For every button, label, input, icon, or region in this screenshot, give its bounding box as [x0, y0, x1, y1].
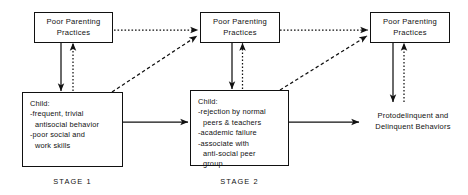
- node-outcome-behaviors: Protodelinquent and Delinquent Behaviors: [358, 110, 468, 132]
- node-poor-parenting-practices-1: Poor Parenting Practices: [34, 12, 113, 43]
- outcome-line2: Delinquent Behaviors: [358, 121, 468, 132]
- arrow-child2-to-parenting3: [280, 36, 367, 90]
- parenting1-line2: Practices: [57, 28, 90, 39]
- child2-item-5: group: [198, 159, 288, 169]
- node-poor-parenting-practices-2: Poor Parenting Practices: [200, 12, 280, 43]
- parenting1-line1: Poor Parenting: [46, 17, 100, 28]
- stage-label-2: STAGE 2: [190, 177, 289, 186]
- node-child-stage-2: Child: -rejection by normal peers & teac…: [190, 90, 289, 166]
- parenting2-line1: Poor Parenting: [213, 17, 267, 28]
- child1-item-0: -frequent, trivial: [30, 109, 122, 119]
- child2-item-3: -associate with: [198, 139, 288, 149]
- node-poor-parenting-practices-3: Poor Parenting Practices: [370, 12, 450, 43]
- child2-item-2: -academic failure: [198, 128, 288, 138]
- parenting3-line2: Practices: [393, 28, 426, 39]
- child1-heading: Child:: [30, 99, 122, 109]
- parenting3-line1: Poor Parenting: [383, 17, 437, 28]
- outcome-line1: Protodelinquent and: [358, 110, 468, 121]
- diagram-canvas: Poor Parenting Practices Poor Parenting …: [0, 0, 468, 195]
- stage-label-1: STAGE 1: [22, 177, 123, 186]
- node-child-stage-1: Child: -frequent, trivial antisocial beh…: [22, 92, 123, 167]
- child2-heading: Child:: [198, 97, 288, 107]
- child2-item-4: anti-social peer: [198, 149, 288, 159]
- arrow-child1-to-parenting2: [112, 36, 197, 92]
- child1-item-3: work skills: [30, 141, 122, 151]
- child2-item-1: peers & teachers: [198, 118, 288, 128]
- child1-item-1: antisocial behavior: [30, 120, 122, 130]
- child2-item-0: -rejection by normal: [198, 107, 288, 117]
- parenting2-line2: Practices: [223, 28, 256, 39]
- child1-item-2: -poor social and: [30, 130, 122, 140]
